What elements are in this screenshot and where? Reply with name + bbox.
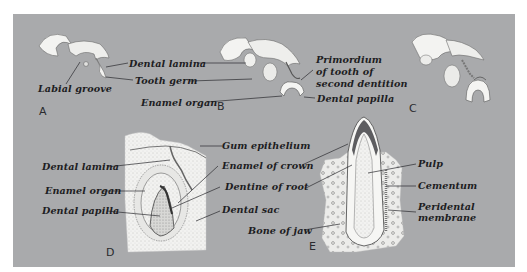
label-dental-lamina-top: Dental lamina bbox=[129, 58, 206, 69]
label-dental-papilla-d: Dental papilla bbox=[42, 205, 119, 216]
label-gum-epithelium: Gum epithelium bbox=[222, 140, 310, 151]
label-peridental-line2: membrane bbox=[418, 212, 476, 223]
label-enamel-organ-top: Enamel organ bbox=[141, 97, 217, 108]
figure-letter-c: C bbox=[409, 103, 417, 115]
label-bone-of-jaw: Bone of jaw bbox=[248, 225, 312, 236]
panel-e-drawing bbox=[320, 117, 404, 252]
panel-c-drawing bbox=[412, 34, 490, 102]
label-enamel-organ-d: Enamel organ bbox=[45, 185, 121, 196]
label-primordium-line2: of tooth of bbox=[316, 66, 373, 77]
label-primordium-line1: Primordium bbox=[316, 54, 382, 65]
label-cementum: Cementum bbox=[418, 180, 477, 191]
figure-letter-e: E bbox=[309, 241, 316, 253]
label-labial-groove: Labial groove bbox=[38, 83, 112, 94]
tooth-development-diagram: Labial groove Dental lamina Tooth germ A… bbox=[0, 0, 527, 272]
label-dental-sac: Dental sac bbox=[222, 204, 280, 215]
label-dental-papilla-top: Dental papilla bbox=[317, 93, 394, 104]
label-dentine-of-root: Dentine of root bbox=[225, 181, 309, 192]
panel-d-drawing bbox=[125, 132, 206, 252]
label-tooth-germ: Tooth germ bbox=[135, 75, 198, 86]
figure-letter-a: A bbox=[39, 106, 47, 118]
label-dental-lamina-d: Dental lamina bbox=[42, 161, 119, 172]
label-primordium-line3: second dentition bbox=[316, 78, 408, 89]
label-peridental-line1: Peridental bbox=[418, 201, 475, 212]
label-pulp: Pulp bbox=[418, 158, 443, 169]
figure-letter-d: D bbox=[106, 247, 114, 259]
figure-letter-b: B bbox=[217, 101, 225, 113]
label-enamel-of-crown: Enamel of crown bbox=[222, 160, 314, 171]
panel-b-drawing bbox=[220, 38, 304, 96]
